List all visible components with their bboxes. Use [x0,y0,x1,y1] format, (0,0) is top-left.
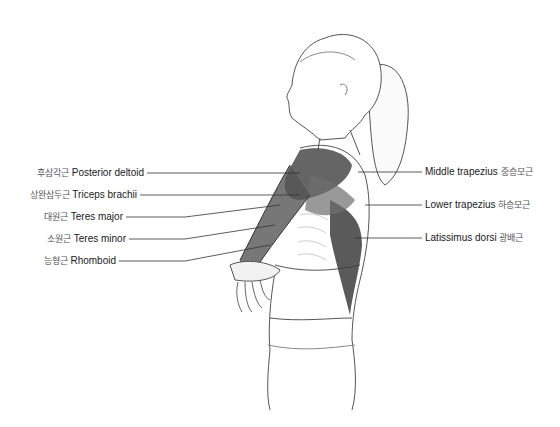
label-ko: 능형근 [44,256,68,266]
label-en: Triceps brachii [72,189,137,200]
label-en: Lower trapezius [425,199,496,210]
label-ko: 하승모근 [498,200,530,210]
label-en: Posterior deltoid [72,167,144,178]
label-en: Latissimus dorsi [425,232,497,243]
label-middle-trapezius: Middle trapezius 중승모근 [425,166,533,178]
label-ko: 대원근 [44,212,68,222]
label-ko: 소원근 [47,234,71,244]
label-teres-minor: 소원근 Teres minor [47,233,126,245]
label-latissimus-dorsi: Latissimus dorsi 광배근 [425,232,523,244]
label-lower-trapezius: Lower trapezius 하승모근 [425,199,530,211]
label-posterior-deltoid: 후삼각근 Posterior deltoid [37,167,144,179]
label-ko: 중승모근 [501,167,533,177]
label-ko: 상완삼두근 [30,190,70,200]
label-en: Teres major [71,211,123,222]
label-ko: 후삼각근 [37,168,69,178]
label-triceps-brachii: 상완삼두근 Triceps brachii [30,189,137,201]
label-en: Middle trapezius [425,166,498,177]
label-teres-major: 대원근 Teres major [44,211,123,223]
label-rhomboid: 능형근 Rhomboid [44,255,116,267]
label-en: Rhomboid [70,255,116,266]
label-ko: 광배근 [499,233,523,243]
anatomy-figure: 후삼각근 Posterior deltoid 상완삼두근 Triceps bra… [0,0,560,427]
label-en: Teres minor [74,233,126,244]
